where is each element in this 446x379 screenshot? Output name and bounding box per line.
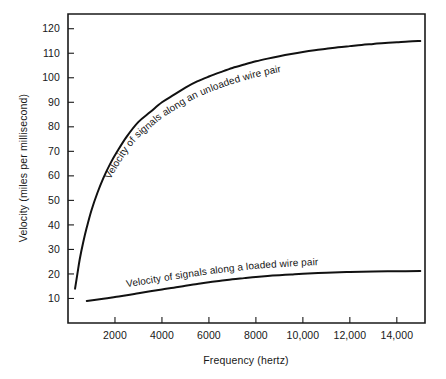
series-label-unloaded: Velocity of signals along an unloaded wi… <box>102 63 282 181</box>
y-axis-tick-label: 10 <box>48 292 60 304</box>
x-axis-tick-labels: 200040006000800010,00012,00014,000 <box>103 329 413 341</box>
y-axis-tick-label: 110 <box>43 47 60 59</box>
y-axis-tick-label: 50 <box>48 194 60 206</box>
plot-frame <box>68 14 425 323</box>
y-axis-tick-label: 90 <box>48 96 60 108</box>
y-axis-tick-label: 120 <box>42 22 60 34</box>
x-axis-tick-label: 14,000 <box>380 329 413 341</box>
x-axis-tick-label: 8000 <box>244 329 268 341</box>
x-axis-tick-label: 2000 <box>103 329 127 341</box>
y-axis-tick-label: 20 <box>48 268 60 280</box>
x-axis-tick-label: 4000 <box>150 329 174 341</box>
y-axis-tick-label: 40 <box>48 219 60 231</box>
x-axis-tick-label: 6000 <box>197 329 221 341</box>
y-axis-title: Velocity (miles per millisecond) <box>17 94 29 242</box>
y-axis-tick-labels: 102030405060708090100110120 <box>42 22 60 304</box>
y-axis-tick-label: 80 <box>48 120 60 132</box>
x-axis-title: Frequency (hertz) <box>203 354 288 366</box>
series-label-loaded: Velocity of signals along a loaded wire … <box>125 256 319 289</box>
y-axis-tick-label: 100 <box>42 71 60 83</box>
y-axis-tick-label: 70 <box>48 145 60 157</box>
chart-svg: 102030405060708090100110120 200040006000… <box>0 0 446 379</box>
y-axis-ticks <box>68 29 74 299</box>
chart-figure: 102030405060708090100110120 200040006000… <box>0 0 446 379</box>
y-axis-tick-label: 60 <box>48 169 60 181</box>
x-axis-ticks <box>115 317 397 323</box>
y-axis-tick-label: 30 <box>48 243 60 255</box>
x-axis-tick-label: 10,000 <box>287 329 320 341</box>
x-axis-tick-label: 12,000 <box>333 329 366 341</box>
